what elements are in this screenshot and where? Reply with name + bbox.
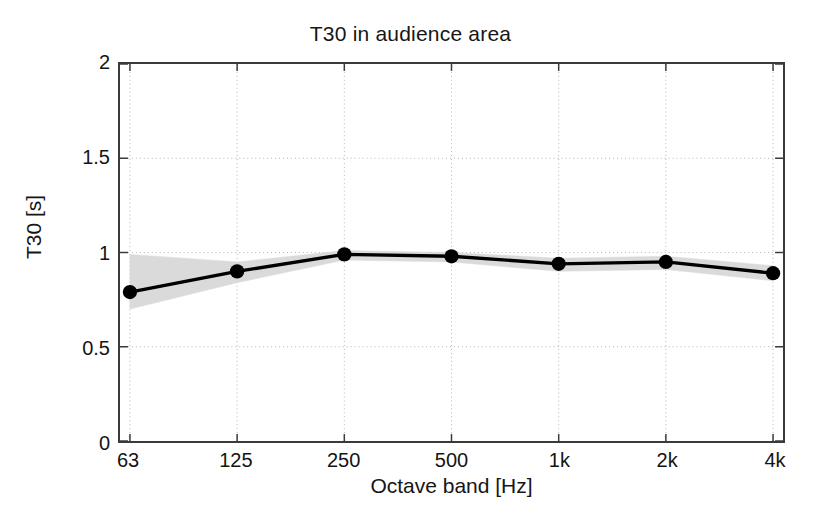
- x-tick-label: 2k: [622, 449, 712, 472]
- x-tick-label: 4k: [730, 449, 820, 472]
- plot-canvas: [120, 64, 783, 441]
- x-tick-label: 500: [407, 449, 497, 472]
- x-tick-label: 63: [83, 449, 173, 472]
- y-tick-label: 2: [50, 51, 110, 74]
- y-axis-label: T30 [s]: [22, 127, 46, 327]
- plot-area: [118, 62, 785, 443]
- y-tick-label: 1.5: [50, 146, 110, 169]
- x-tick-label: 250: [299, 449, 389, 472]
- x-tick-label: 1k: [514, 449, 604, 472]
- x-tick-label: 125: [191, 449, 281, 472]
- y-tick-label: 0.5: [50, 336, 110, 359]
- y-tick-label: 1: [50, 241, 110, 264]
- y-axis-tick-labels: 00.511.52: [44, 62, 110, 443]
- chart-title: T30 in audience area: [0, 22, 821, 46]
- x-axis-label: Octave band [Hz]: [118, 474, 785, 498]
- chart-figure: T30 in audience area 00.511.52 631252505…: [0, 0, 821, 515]
